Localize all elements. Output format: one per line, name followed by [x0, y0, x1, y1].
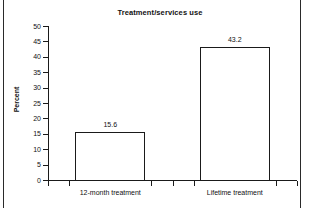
- bar-chart-figure: Treatment/services use Percent 504540353…: [0, 0, 320, 208]
- page-canvas: Treatment/services use Percent 504540353…: [0, 0, 320, 208]
- x-tick-mark: [173, 181, 174, 186]
- bar-value-label: 15.6: [80, 121, 140, 129]
- y-tick-mark: [43, 149, 48, 150]
- x-tick-mark: [276, 181, 277, 186]
- x-tick-mark: [194, 181, 195, 186]
- y-tick-mark: [43, 88, 48, 89]
- bar: [200, 47, 270, 181]
- x-tick-mark: [151, 181, 152, 186]
- y-tick-label: 35: [20, 69, 41, 76]
- y-tick-mark: [43, 41, 48, 42]
- bar-value-label: 43.2: [205, 36, 265, 44]
- y-tick-label: 50: [20, 23, 41, 30]
- x-category-label: 12-month treatment: [48, 189, 172, 197]
- y-tick-label: 40: [20, 53, 41, 60]
- y-tick-label: 10: [20, 146, 41, 153]
- y-tick-label: 5: [20, 161, 41, 168]
- y-tick-mark: [43, 72, 48, 73]
- y-tick-mark: [43, 57, 48, 58]
- y-tick-label: 15: [20, 130, 41, 137]
- y-tick-mark: [43, 118, 48, 119]
- y-tick-label: 25: [20, 100, 41, 107]
- x-tick-mark: [48, 181, 49, 186]
- y-tick-label: 0: [20, 177, 41, 184]
- x-category-label: Lifetime treatment: [173, 189, 297, 197]
- chart-title: Treatment/services use: [60, 8, 260, 17]
- y-tick-label: 30: [20, 84, 41, 91]
- y-tick-mark: [43, 165, 48, 166]
- y-tick-mark: [43, 134, 48, 135]
- x-tick-mark: [69, 181, 70, 186]
- y-tick-mark: [43, 26, 48, 27]
- y-tick-label: 45: [20, 38, 41, 45]
- y-tick-mark: [43, 103, 48, 104]
- y-axis-label: Percent: [13, 70, 20, 130]
- y-tick-label: 20: [20, 115, 41, 122]
- y-axis-line: [48, 26, 49, 181]
- x-tick-mark: [297, 181, 298, 186]
- bar: [75, 132, 145, 181]
